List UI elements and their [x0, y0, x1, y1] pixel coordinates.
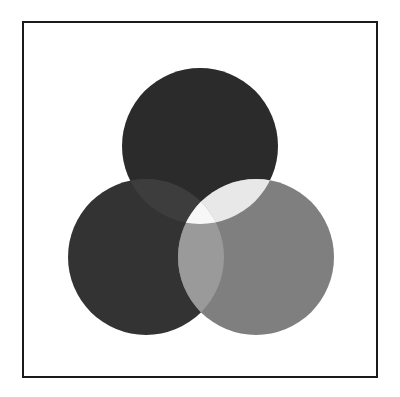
- figure-root: [0, 0, 400, 397]
- venn-diagram: [0, 0, 400, 397]
